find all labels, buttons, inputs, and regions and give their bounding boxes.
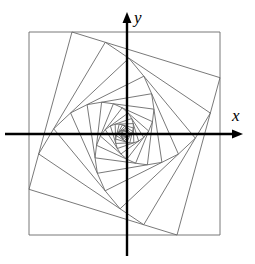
x-axis-label: x bbox=[232, 107, 240, 124]
spiral-squares-canvas bbox=[0, 0, 255, 264]
y-axis-arrowhead bbox=[123, 12, 132, 23]
y-axis-label: y bbox=[134, 9, 142, 26]
axes-group bbox=[5, 12, 243, 256]
math-figure: x y bbox=[0, 0, 255, 264]
x-axis-arrowhead bbox=[232, 130, 243, 139]
